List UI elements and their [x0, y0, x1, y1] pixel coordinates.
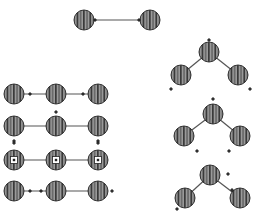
junction-marker-icon — [28, 92, 32, 96]
node-circle — [45, 84, 66, 104]
node-circle — [229, 188, 250, 208]
junction-marker-icon — [28, 189, 32, 193]
junction-marker-icon — [12, 141, 16, 145]
node-circle — [45, 150, 66, 170]
node-circle — [174, 188, 195, 208]
junction-marker-icon — [81, 92, 85, 96]
node-circle — [87, 84, 108, 104]
junction-marker-icon — [175, 207, 179, 211]
junction-marker-icon — [248, 87, 252, 91]
junction-marker-icon — [226, 172, 230, 176]
node-circle — [170, 65, 191, 85]
junction-marker-icon — [54, 110, 58, 114]
node-circle — [3, 116, 24, 136]
node-circle — [3, 181, 24, 201]
node-circle — [198, 42, 219, 62]
node-circle — [45, 116, 66, 136]
junction-marker-icon — [169, 87, 173, 91]
node-circle — [202, 104, 223, 124]
node-circle — [87, 150, 108, 170]
node-circle — [229, 126, 250, 146]
node-circle — [227, 65, 248, 85]
junction-marker-icon — [195, 149, 199, 153]
junction-marker-icon — [211, 97, 215, 101]
node-circle — [199, 165, 220, 185]
node-circle — [3, 150, 24, 170]
junction-marker-icon — [227, 149, 231, 153]
junction-marker-icon — [39, 189, 43, 193]
diagram-canvas — [0, 0, 259, 212]
node-circle — [173, 126, 194, 146]
node-circle — [3, 84, 24, 104]
node-circle — [87, 181, 108, 201]
node-circle — [87, 116, 108, 136]
junction-marker-icon — [96, 141, 100, 145]
junction-marker-icon — [207, 38, 211, 42]
node-circle — [139, 10, 160, 30]
node-circle — [73, 10, 94, 30]
node-circle — [45, 181, 66, 201]
junction-marker-icon — [110, 189, 114, 193]
nodes-layer — [3, 10, 250, 208]
